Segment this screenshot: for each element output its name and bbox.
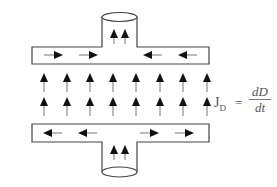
top-plate <box>32 13 209 65</box>
field-arrow-icon <box>63 97 71 106</box>
displacement-field-arrows <box>40 73 211 116</box>
field-arrow-icon <box>40 73 48 82</box>
equation-denominator: dt <box>249 100 271 116</box>
equation-numerator: dD <box>249 84 271 100</box>
field-arrow-icon <box>109 97 117 106</box>
field-arrow-icon <box>86 97 94 106</box>
field-arrow-icon <box>63 73 71 82</box>
field-arrow-icon <box>156 73 164 82</box>
equation-lhs: JD <box>214 95 226 113</box>
equation-equals: = <box>235 95 242 111</box>
field-arrow-icon <box>203 73 211 82</box>
bottom-lead-ellipse <box>102 167 137 177</box>
field-arrow-icon <box>109 73 117 82</box>
field-arrow-icon <box>132 73 140 82</box>
top-lead-ellipse <box>102 13 137 22</box>
field-arrow-icon <box>179 73 187 82</box>
capacitor-diagram <box>0 0 277 187</box>
field-arrow-icon <box>86 73 94 82</box>
field-arrow-icon <box>179 97 187 106</box>
equation-fraction: dD dt <box>249 84 271 116</box>
field-arrow-icon <box>156 97 164 106</box>
field-arrow-icon <box>40 97 48 106</box>
bottom-plate <box>32 124 209 177</box>
field-arrow-icon <box>132 97 140 106</box>
field-arrow-icon <box>203 97 211 106</box>
